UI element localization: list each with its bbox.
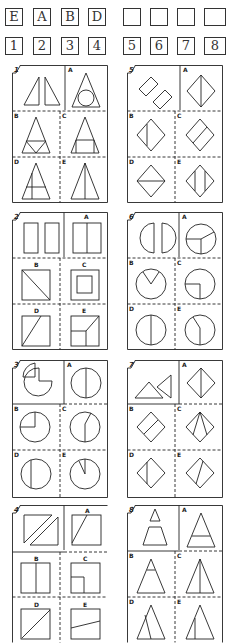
panel-5-figures: [127, 65, 223, 203]
puzzle-panel-2: 2 A B C D E: [12, 212, 108, 350]
puzzle-panel-1: 1 A B C D E: [12, 65, 108, 203]
panel-number: 7: [129, 362, 134, 369]
option-label-c: C: [62, 113, 66, 119]
panel-number: 4: [14, 507, 19, 514]
option-label-a: A: [68, 67, 73, 73]
option-label-a: A: [183, 67, 188, 73]
panel-3-figures: [12, 360, 108, 498]
option-label-d: D: [14, 159, 19, 165]
option-label-a: A: [182, 507, 187, 513]
answer-box-1[interactable]: E: [5, 8, 23, 26]
panel-number: 8: [129, 507, 134, 514]
option-label-b: B: [34, 262, 39, 268]
option-label-c: C: [177, 113, 181, 119]
answer-box-8[interactable]: [204, 8, 226, 26]
number-box-3: 3: [61, 37, 79, 55]
panel-number: 5: [129, 67, 134, 74]
panel-number: 3: [14, 362, 19, 369]
option-label-e: E: [177, 599, 181, 605]
answer-box-2[interactable]: A: [33, 8, 51, 26]
number-box-8: 8: [204, 37, 226, 55]
puzzle-panel-6: 6 A B C D E: [127, 212, 223, 350]
answer-box-3[interactable]: B: [61, 8, 79, 26]
option-label-a: A: [85, 508, 90, 514]
puzzle-panel-8: 8 A B C D E: [127, 505, 223, 643]
option-label-a: A: [182, 214, 187, 220]
panel-number: 2: [14, 214, 19, 221]
number-box-4: 4: [88, 37, 106, 55]
panel-4-figures: [12, 505, 108, 643]
option-label-e: E: [177, 159, 181, 165]
option-label-a: A: [182, 362, 187, 368]
panel-1-figures: [12, 65, 108, 203]
answer-box-7[interactable]: [177, 8, 195, 26]
option-label-b: B: [14, 406, 19, 412]
option-label-e: E: [83, 602, 87, 608]
puzzle-panel-4: 4 A B C D E: [12, 505, 108, 643]
number-box-1: 1: [5, 37, 23, 55]
panel-6-figures: [127, 212, 223, 350]
page-header-partial: ANSWER SEQUENCE: [0, 0, 140, 3]
option-label-d: D: [129, 599, 134, 605]
option-label-b: B: [34, 556, 39, 562]
option-label-c: C: [177, 406, 181, 412]
option-label-d: D: [14, 452, 19, 458]
option-label-c: C: [82, 262, 86, 268]
number-box-6: 6: [150, 37, 168, 55]
option-label-e: E: [82, 308, 86, 314]
option-label-b: B: [129, 113, 134, 119]
number-box-7: 7: [177, 37, 195, 55]
option-label-c: C: [83, 556, 87, 562]
panel-number: 6: [129, 214, 134, 221]
option-label-d: D: [34, 602, 39, 608]
option-label-b: B: [129, 260, 134, 266]
option-label-e: E: [62, 159, 66, 165]
option-label-b: B: [129, 553, 134, 559]
option-label-d: D: [129, 306, 134, 312]
option-label-c: C: [177, 553, 181, 559]
option-label-b: B: [129, 406, 134, 412]
panel-2-figures: [12, 212, 108, 350]
panel-number: 1: [14, 67, 19, 74]
number-box-5: 5: [123, 37, 141, 55]
option-label-e: E: [177, 306, 181, 312]
puzzle-panel-7: 7 A B C D E: [127, 360, 223, 498]
option-label-c: C: [177, 260, 181, 266]
answer-box-4[interactable]: D: [88, 8, 106, 26]
puzzle-panel-5: 5 A B C D E: [127, 65, 223, 203]
option-label-d: D: [34, 308, 39, 314]
option-label-b: B: [14, 113, 19, 119]
panel-7-figures: [127, 360, 223, 498]
option-label-a: A: [84, 214, 89, 220]
option-label-a: A: [67, 362, 72, 368]
number-box-2: 2: [33, 37, 51, 55]
option-label-e: E: [177, 452, 181, 458]
puzzle-panel-3: 3 A B C D E: [12, 360, 108, 498]
answer-box-5[interactable]: [123, 8, 141, 26]
option-label-c: C: [62, 406, 66, 412]
option-label-d: D: [129, 159, 134, 165]
panel-8-figures: [127, 505, 223, 643]
option-label-e: E: [62, 452, 66, 458]
option-label-d: D: [129, 452, 134, 458]
answer-box-6[interactable]: [150, 8, 168, 26]
